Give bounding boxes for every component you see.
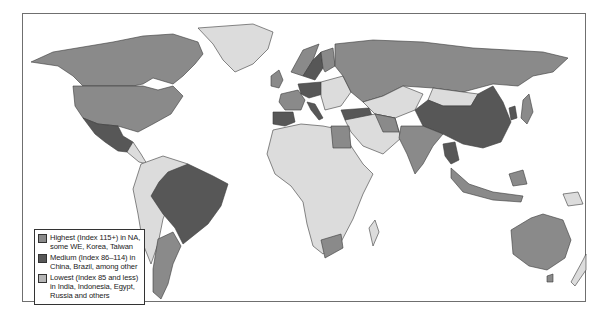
legend-label-lowest: Lowest (Index 85 and less) in India, Ind…	[50, 273, 141, 301]
region-korea	[509, 106, 517, 120]
region-new-zealand	[571, 254, 586, 286]
region-madagascar	[369, 220, 379, 246]
region-united-kingdom	[271, 70, 283, 88]
region-argentina	[153, 232, 181, 299]
legend-item-medium: Medium (Index 86–114) in China, Brazil, …	[38, 253, 141, 272]
legend-swatch-medium	[38, 254, 47, 263]
region-india	[399, 126, 443, 174]
region-canada	[31, 34, 203, 86]
legend-label-highest: Highest (Index 115+) in NA, some WE, Kor…	[50, 233, 141, 252]
legend-item-highest: Highest (Index 115+) in NA, some WE, Kor…	[38, 233, 141, 252]
region-australia	[511, 214, 571, 270]
legend-swatch-lowest	[38, 274, 47, 283]
region-greenland	[198, 24, 273, 72]
region-borneo	[509, 170, 527, 186]
legend-label-medium: Medium (Index 86–114) in China, Brazil, …	[50, 253, 141, 272]
legend-swatch-highest	[38, 234, 47, 243]
map-legend: Highest (Index 115+) in NA, some WE, Kor…	[34, 229, 145, 305]
map-frame: Highest (Index 115+) in NA, some WE, Kor…	[22, 13, 586, 302]
region-thailand	[443, 142, 459, 164]
region-japan	[521, 94, 533, 124]
region-finland	[321, 48, 335, 72]
region-italy	[307, 102, 323, 120]
region-tasmania	[547, 274, 553, 282]
region-egypt	[331, 126, 351, 148]
legend-item-lowest: Lowest (Index 85 and less) in India, Ind…	[38, 273, 141, 301]
region-papua-new-guinea	[563, 192, 583, 206]
region-africa	[267, 124, 373, 254]
region-spain	[273, 112, 295, 126]
